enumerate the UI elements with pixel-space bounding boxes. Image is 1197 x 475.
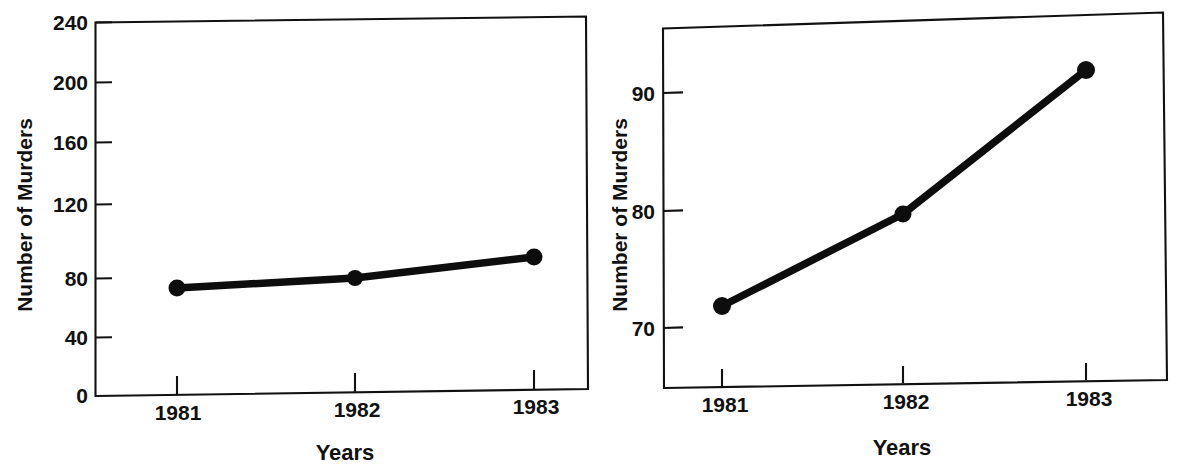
y-tick-label-80: 80 (65, 267, 88, 290)
x-tick-label-1981: 1981 (155, 401, 202, 424)
y-tick-label-40: 40 (65, 326, 88, 349)
data-point-1981 (169, 280, 186, 297)
x-tick-label-1982: 1982 (883, 390, 930, 413)
data-point-1982 (347, 270, 363, 286)
y-tick-label-80: 80 (632, 200, 655, 223)
x-tick-label-1982: 1982 (334, 398, 381, 421)
x-tick-label-1983: 1983 (1066, 387, 1113, 410)
y-tick-label-120: 120 (53, 193, 88, 216)
y-axis-title-right: Number of Murders (608, 118, 631, 312)
y-tick-label-160: 160 (53, 131, 88, 154)
y-tick-label-70: 70 (632, 317, 655, 340)
y-tick-label-0: 0 (76, 384, 88, 407)
x-axis-title-right: Years (873, 435, 932, 460)
y-tick-label-90: 90 (632, 82, 655, 105)
y-tick-80 (663, 210, 683, 211)
y-tick-90 (663, 92, 683, 93)
y-axis-ticks-left (96, 22, 113, 337)
data-point-1982 (895, 206, 912, 223)
x-tick-label-1981: 1981 (702, 393, 749, 416)
y-tick-70 (663, 327, 683, 328)
chart-panel-right: 90 80 70 1981 1982 1983 Number of Murder… (597, 0, 1197, 475)
data-point-1983 (1077, 61, 1095, 79)
y-tick-label-200: 200 (53, 71, 88, 94)
data-line-right (722, 70, 1086, 306)
plot-frame-left (96, 17, 589, 397)
two-panel-line-chart-figure: 240 200 160 120 80 40 0 1981 1982 1983 (0, 0, 1197, 475)
y-axis-ticks-right (663, 92, 683, 328)
x-tick-label-1983: 1983 (513, 395, 560, 418)
x-axis-title-left: Years (316, 440, 375, 465)
y-tick-label-240: 240 (53, 11, 88, 34)
data-point-1983 (526, 249, 543, 266)
y-axis-title-left: Number of Murders (13, 118, 36, 312)
data-point-1981 (713, 297, 731, 315)
chart-panel-left: 240 200 160 120 80 40 0 1981 1982 1983 (0, 0, 600, 475)
